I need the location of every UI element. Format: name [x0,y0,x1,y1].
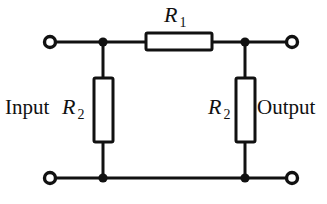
shunt-resistor-r2-right-label: R2 [208,96,228,118]
r2-right-symbol: R [208,94,221,119]
r1-subscript: 1 [179,15,186,30]
r2-left-subscript: 2 [77,107,84,122]
resistor-body-group [94,33,255,142]
r2-left-symbol: R [62,94,75,119]
input-top-terminal-icon [45,37,56,48]
junction-top-right-dot [240,37,249,46]
junction-bottom-right-dot [240,173,249,182]
input-bottom-terminal-icon [45,173,56,184]
circuit-diagram: Input Output R1 R2 R2 [0,0,327,204]
input-port-label: Input [5,97,49,118]
shunt-resistor-r2-left-label: R2 [62,96,82,118]
r1-symbol: R [164,2,177,27]
junction-bottom-left-dot [98,173,107,182]
output-top-terminal-icon [287,37,298,48]
series-resistor-r1-body [146,33,212,50]
output-bottom-terminal-icon [287,173,298,184]
series-resistor-r1-label: R1 [164,4,184,26]
shunt-resistor-r2-left-body [94,78,113,142]
r2-right-subscript: 2 [223,107,230,122]
junction-top-left-dot [98,37,107,46]
shunt-resistor-r2-right-body [236,78,255,142]
output-port-label: Output [257,97,315,118]
